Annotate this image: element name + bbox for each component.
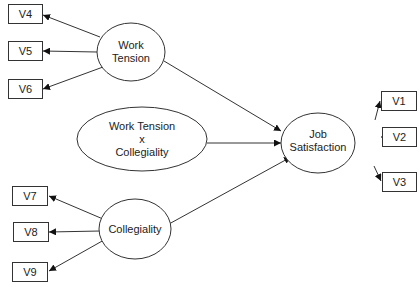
v7-label: V7 <box>23 190 36 202</box>
observed-v6: V6 <box>9 80 43 99</box>
v6-label: V6 <box>19 83 32 95</box>
edge-work-tension-v4 <box>43 15 100 37</box>
v9-label: V9 <box>23 266 36 278</box>
job-satisfaction-label-line2: Satisfaction <box>290 141 347 153</box>
observed-v9: V9 <box>13 263 48 282</box>
edge-job-satisfaction-v1 <box>375 101 380 120</box>
observed-v4: V4 <box>9 5 43 24</box>
latent-collegiality: Collegiality <box>99 199 171 259</box>
edge-collegiality-v8 <box>49 231 100 232</box>
cropped-caption-strip <box>0 286 420 291</box>
observed-v2: V2 <box>383 128 417 147</box>
edges-collegiality-indicators <box>49 196 104 271</box>
work-tension-label-line1: Work <box>118 39 144 51</box>
v8-label: V8 <box>24 226 37 238</box>
interaction-label-line1: Work Tension <box>109 120 175 132</box>
observed-v8: V8 <box>14 223 49 242</box>
edge-work-tension-v6 <box>43 67 103 89</box>
edges-work-tension-indicators <box>43 15 103 89</box>
edge-work-tension-v5 <box>43 51 97 52</box>
edge-collegiality-v7 <box>49 196 103 219</box>
path-diagram: Work Tension Work Tension x Collegiality… <box>0 0 420 291</box>
v5-label: V5 <box>19 45 32 57</box>
job-satisfaction-label-line1: Job <box>309 128 327 140</box>
v3-label: V3 <box>393 176 406 188</box>
v1-label: V1 <box>392 95 405 107</box>
edge-job-satisfaction-v3 <box>374 166 381 181</box>
latent-job-satisfaction: Job Satisfaction <box>281 113 355 173</box>
edge-collegiality-v9 <box>49 240 104 271</box>
latent-interaction: Work Tension x Collegiality <box>77 107 207 171</box>
edge-collegiality-job-satisfaction <box>169 157 291 224</box>
v4-label: V4 <box>19 8 32 20</box>
work-tension-label-line2: Tension <box>112 52 150 64</box>
latent-work-tension: Work Tension <box>97 23 165 81</box>
interaction-label-line3: Collegiality <box>115 146 169 158</box>
observed-v7: V7 <box>13 187 48 206</box>
interaction-label-line2: x <box>139 133 145 145</box>
observed-v1: V1 <box>382 92 417 111</box>
v2-label: V2 <box>393 131 406 143</box>
collegiality-label: Collegiality <box>108 223 162 235</box>
observed-v5: V5 <box>9 42 43 61</box>
observed-v3: V3 <box>383 173 417 192</box>
